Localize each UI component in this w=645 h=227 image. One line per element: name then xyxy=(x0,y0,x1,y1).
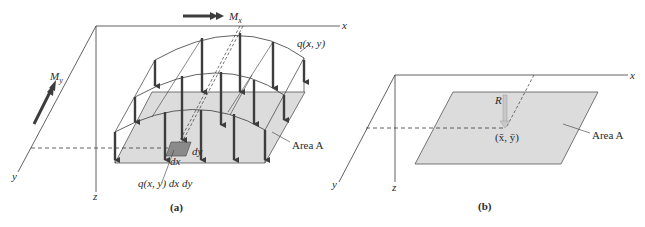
moment-x-label: Mx xyxy=(228,10,242,25)
area-label-a: Area A xyxy=(292,139,324,151)
plate-area-a xyxy=(115,92,305,163)
panel-a: Mx My x y z q(x, y) dy dx q(x, y) dx dy … xyxy=(11,10,347,214)
panel-b: R (x̄, ȳ) Area A x y z (b) xyxy=(331,69,635,213)
load-label: q(x, y) xyxy=(297,37,325,50)
centroid-label: (x̄, ȳ) xyxy=(495,131,519,144)
x-axis-label-a: x xyxy=(341,19,347,31)
y-axis-label-b: y xyxy=(331,178,337,190)
caption-b: (b) xyxy=(478,200,492,213)
z-axis-label-b: z xyxy=(391,181,397,193)
z-axis-label-a: z xyxy=(92,190,98,202)
element-load-label: q(x, y) dx dy xyxy=(138,177,192,190)
y-axis-a xyxy=(18,26,96,172)
moment-y-label: My xyxy=(49,70,63,85)
resultant-label: R xyxy=(494,94,502,106)
diagram-canvas: Mx My x y z q(x, y) dy dx q(x, y) dx dy … xyxy=(0,0,645,227)
y-axis-label-a: y xyxy=(11,170,17,182)
area-label-b: Area A xyxy=(592,129,624,141)
x-axis-label-b: x xyxy=(629,69,635,81)
moment-y-vector xyxy=(34,80,56,124)
caption-a: (a) xyxy=(170,201,183,214)
load-arc-back xyxy=(155,35,304,60)
y-axis-b xyxy=(339,75,395,182)
dy-label: dy xyxy=(192,145,203,157)
dx-label: dx xyxy=(170,155,181,167)
moment-x-vector xyxy=(183,12,224,20)
